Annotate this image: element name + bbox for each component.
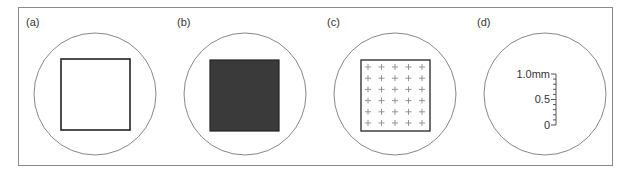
panel-label-b: (b) [177, 16, 190, 28]
ruler-label-mid: 0.5 [535, 93, 550, 105]
panel-d: (d) 1.0mm 0.5 0 [477, 16, 606, 155]
grid-square [361, 60, 430, 131]
ruler-label-max: 1.0mm [516, 68, 550, 80]
panel-label-c: (c) [327, 16, 340, 28]
panel-label-a: (a) [26, 16, 39, 28]
panel-c: (c) [327, 16, 456, 155]
panel-label-d: (d) [477, 16, 490, 28]
figure-canvas: (a) (b) (c) (d) 1.0mm 0.5 0 [0, 0, 625, 174]
panel-b: (b) [177, 16, 306, 155]
ruler-label-zero: 0 [544, 119, 550, 131]
filled-square [210, 60, 279, 131]
panel-a: (a) [26, 16, 156, 155]
open-square [61, 59, 130, 130]
